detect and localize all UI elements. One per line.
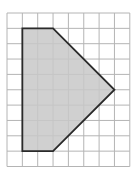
shaded-pentagon <box>22 28 114 151</box>
grid-figure <box>0 0 138 182</box>
